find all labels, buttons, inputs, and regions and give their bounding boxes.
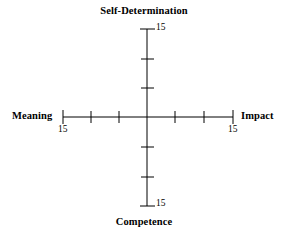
axis-label-meaning: Meaning <box>12 110 52 122</box>
axis-label-competence: Competence <box>116 216 172 228</box>
tick-value-top: 15 <box>156 22 166 33</box>
tick-value-right: 15 <box>228 124 238 135</box>
tick-value-bottom: 15 <box>156 198 166 209</box>
axes-diagram-figure: Self-Determination Competence Meaning Im… <box>0 0 288 237</box>
tick-value-left: 15 <box>58 124 68 135</box>
axis-label-self-determination: Self-Determination <box>100 5 188 17</box>
axis-label-impact: Impact <box>241 110 274 122</box>
